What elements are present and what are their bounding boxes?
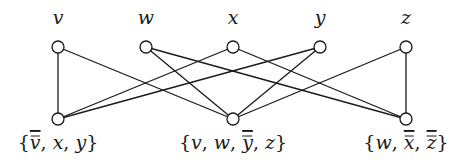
nodes-group <box>52 41 412 125</box>
literal-not-v: v <box>30 131 41 153</box>
variable-label-w: w <box>138 6 154 28</box>
edge-y-C1 <box>58 47 320 119</box>
clause-label-C1: {v, x, y} <box>18 131 99 153</box>
literal-not-x: x <box>404 131 415 153</box>
clause-label-C3: {w, x, z} <box>363 131 448 153</box>
variable-node-z <box>400 41 412 53</box>
literal-v: v <box>191 131 202 153</box>
literal-w: w <box>214 131 230 153</box>
variable-node-y <box>314 41 326 53</box>
variable-node-w <box>140 41 152 53</box>
variable-node-x <box>227 41 239 53</box>
clause-node-C2 <box>227 113 239 125</box>
variable-node-v <box>52 41 64 53</box>
clause-node-C1 <box>52 113 64 125</box>
clause-node-C3 <box>400 113 412 125</box>
variable-label-y: y <box>314 6 326 28</box>
edge-y-C2 <box>233 47 320 119</box>
literal-x: x <box>53 131 64 153</box>
literal-w: w <box>375 131 391 153</box>
clause-label-C2: {v, w, y, z} <box>179 131 287 153</box>
literal-y: y <box>74 131 86 153</box>
variable-label-z: z <box>400 6 412 28</box>
edges-group <box>58 47 406 119</box>
labels-group: vwxyz{v, x, y}{v, w, y, z}{w, x, z} <box>18 6 449 153</box>
variable-label-v: v <box>53 6 64 28</box>
literal-not-y: y <box>241 131 253 153</box>
bipartite-graph: vwxyz{v, x, y}{v, w, y, z}{w, x, z} <box>0 0 475 166</box>
variable-label-x: x <box>228 6 239 28</box>
